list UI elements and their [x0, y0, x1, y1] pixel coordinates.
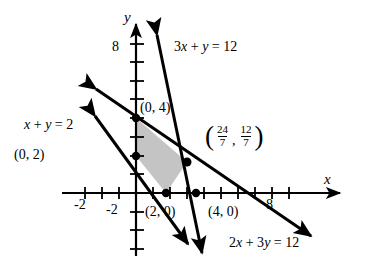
x-tick-label-neg2: -2: [74, 198, 86, 212]
point-24-7-12-7: [183, 158, 192, 167]
point-label-0-2: (0, 2): [14, 148, 44, 162]
eq3-plus: +: [30, 117, 45, 132]
eq2-plus: + 3: [242, 235, 264, 250]
eq2-rhs: = 12: [270, 235, 299, 250]
point-0-2: [132, 152, 140, 160]
fraction-numerator-24: 24: [215, 124, 230, 136]
point-label-24-7-12-7: ( 24 7 , 12 7 ): [205, 124, 264, 149]
fraction-numerator-12: 12: [239, 124, 254, 136]
y-axis-label: y: [124, 10, 131, 25]
eq1-rhs: = 12: [208, 39, 237, 54]
point-0-4: [132, 114, 140, 122]
equation-label-2x-plus-3y-equals-12: 2x + 3y = 12: [229, 236, 299, 250]
equation-label-x-plus-y-equals-2: x + y = 2: [24, 118, 73, 132]
y-tick-label-8: 8: [112, 40, 119, 54]
eq1-coef: 3: [174, 39, 181, 54]
fraction-24-over-7: 24 7: [215, 124, 230, 149]
eq1-plus: +: [187, 39, 202, 54]
eq3-rhs: = 2: [51, 117, 73, 132]
point-label-2-0: (2, 0): [145, 205, 175, 219]
equation-label-3x-plus-y-equals-12: 3x + y = 12: [174, 40, 237, 54]
point-2-0: [162, 189, 170, 197]
fraction-12-over-7: 12 7: [239, 124, 254, 149]
graph-figure: y x 8 -2 -2 8 (0, 4) (0, 2) (2, 0) (4, 0…: [0, 0, 368, 269]
paren-open: (: [205, 125, 214, 147]
eq2-coef: 2: [229, 235, 236, 250]
y-tick-label-neg2: -2: [106, 203, 118, 217]
fraction-denominator-7a: 7: [218, 136, 228, 149]
point-label-0-4: (0, 4): [140, 101, 170, 115]
fraction-denominator-7b: 7: [241, 136, 251, 149]
point-4-0: [192, 189, 200, 197]
x-tick-label-8: 8: [266, 198, 273, 212]
point-label-4-0: (4, 0): [208, 205, 238, 219]
fraction-comma: ,: [232, 134, 236, 149]
x-axis-label: x: [324, 172, 331, 187]
paren-close: ): [255, 125, 264, 147]
